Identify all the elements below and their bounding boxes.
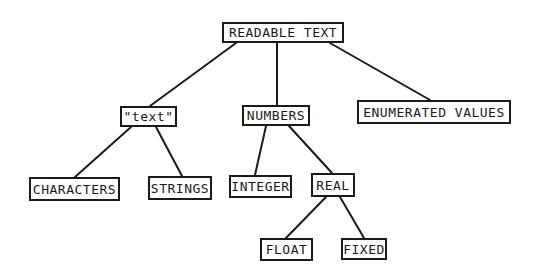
- node-characters: CHARACTERS: [29, 177, 120, 201]
- edge-real-fixed: [340, 197, 364, 238]
- node-label: CHARACTERS: [33, 182, 116, 197]
- node-readable-text: READABLE TEXT: [222, 22, 344, 43]
- node-label: "text": [124, 109, 174, 124]
- node-float: FLOAT: [260, 238, 313, 261]
- node-label: READABLE TEXT: [229, 25, 337, 40]
- node-label: REAL: [316, 178, 349, 193]
- edge-readable_text-enumerated_values: [330, 43, 430, 100]
- edge-numbers-real: [289, 126, 332, 173]
- edge-readable_text-text: [150, 43, 236, 106]
- diagram-canvas: READABLE TEXT "text" NUMBERS ENUMERATED …: [0, 0, 537, 274]
- node-label: NUMBERS: [247, 108, 305, 123]
- node-label: FIXED: [343, 242, 385, 257]
- edge-text-characters: [75, 127, 131, 177]
- node-real: REAL: [311, 173, 355, 197]
- node-numbers: NUMBERS: [242, 105, 310, 126]
- node-strings: STRINGS: [148, 176, 212, 200]
- node-integer: INTEGER: [229, 175, 292, 198]
- node-text: "text": [120, 106, 177, 127]
- node-label: FLOAT: [266, 242, 308, 257]
- node-enumerated-values: ENUMERATED VALUES: [357, 100, 511, 124]
- node-label: ENUMERATED VALUES: [363, 105, 505, 120]
- edge-numbers-integer: [255, 126, 266, 175]
- edge-real-float: [286, 197, 326, 238]
- node-label: INTEGER: [231, 179, 289, 194]
- edge-text-strings: [156, 127, 182, 176]
- node-label: STRINGS: [151, 181, 209, 196]
- node-fixed: FIXED: [341, 238, 387, 260]
